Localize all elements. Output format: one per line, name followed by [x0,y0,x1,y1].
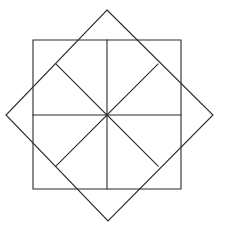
figure-background [0,0,225,237]
center-point-marker [106,114,109,117]
geometric-figure-svg [0,0,225,237]
geometric-figure-container [0,0,225,237]
